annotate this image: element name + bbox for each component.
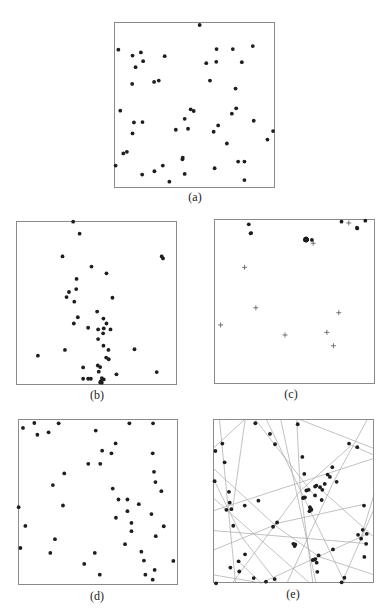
data-point [132,121,136,125]
data-point [98,462,102,466]
data-point [107,357,111,361]
data-point [315,561,319,565]
cluster-parent-cross-icon [218,322,223,327]
data-point [74,287,78,291]
data-point [61,504,65,508]
data-point [275,521,279,525]
data-point [214,581,218,585]
data-point [71,220,75,224]
data-point [364,542,368,546]
data-point [231,524,235,528]
data-point [61,255,65,259]
panel-c-caption: (c) [284,387,297,402]
data-point [107,348,111,352]
data-point [183,172,187,176]
panel-d-trend-pattern [18,419,178,585]
data-point [97,370,101,374]
data-point [98,380,102,384]
panel-d-caption: (d) [90,589,104,604]
random-line [277,527,319,557]
cluster-parent-cross-icon [336,310,341,315]
data-point [102,344,106,348]
data-point [134,65,138,69]
data-point [208,79,212,83]
data-point [154,534,158,538]
data-point [118,109,122,113]
data-point [57,421,61,425]
data-point [19,546,23,550]
data-point [240,60,244,64]
random-line [342,509,374,583]
data-point [293,543,297,547]
data-point [331,547,335,551]
data-point [48,551,52,555]
data-point [214,60,218,64]
data-point [62,472,66,476]
data-point [67,290,71,294]
random-line [232,419,245,511]
panel-e-line-intersection-pattern [213,419,374,583]
panel-frame [215,220,375,384]
data-point [150,512,154,516]
data-point [252,119,256,123]
data-point [161,256,165,260]
data-point [228,501,232,505]
data-point [192,109,196,113]
data-point [63,348,67,352]
data-point [36,354,40,358]
data-point [51,483,55,487]
cluster-parent-cross-icon [331,343,336,348]
data-point [161,164,165,168]
data-point [307,488,311,492]
data-point [159,489,163,493]
data-point [114,516,118,520]
data-point [243,160,247,164]
data-point [320,488,324,492]
data-point [335,480,339,484]
data-point [312,558,316,562]
data-point [157,79,161,83]
panel-a-caption: (a) [188,190,201,205]
data-point [126,509,130,513]
data-point [230,112,234,116]
data-point [98,573,102,577]
random-line [213,419,245,449]
data-point [96,328,100,332]
data-point [130,521,134,525]
data-point [361,528,365,532]
data-point [53,537,57,541]
data-point [362,555,366,559]
data-point [271,525,275,529]
data-point [347,442,351,446]
data-point [359,537,363,541]
data-point [133,347,137,351]
panel-c-cluster-pattern [214,219,375,384]
data-point [273,442,277,446]
data-point [342,576,346,580]
panel-b-caption: (b) [90,388,104,403]
data-point [131,131,135,135]
data-point [94,429,98,433]
data-point [323,482,327,486]
data-point [90,265,94,269]
data-point [142,559,146,563]
data-point [123,542,127,546]
data-point [237,570,241,574]
data-point [234,87,238,91]
data-point [212,130,216,134]
data-point [81,366,85,370]
data-point [167,180,171,184]
data-point [96,337,100,341]
data-point [17,505,21,509]
data-point [111,296,115,300]
data-point [153,169,157,173]
data-point [82,562,86,566]
data-point [234,106,238,110]
data-point [155,370,159,374]
data-point [215,47,219,51]
data-point [102,317,106,321]
data-point [355,227,359,231]
data-point [141,59,145,63]
data-point [363,219,367,223]
data-point [225,142,229,146]
